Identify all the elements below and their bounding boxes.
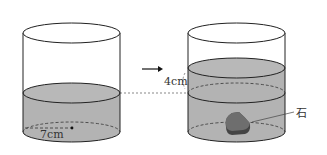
rise-label: 4cm (164, 75, 188, 88)
right-water-surface (188, 58, 285, 78)
radius-label: 7cm (40, 128, 64, 141)
left-top-rim (23, 23, 120, 43)
right-cylinder: 石 4cm (164, 23, 307, 142)
diagram-canvas: 7cm 石 4cm (0, 0, 327, 155)
arrow-icon (142, 66, 163, 72)
left-water-surface (23, 83, 120, 103)
center-dot (71, 127, 74, 130)
stone-label: 石 (296, 107, 307, 120)
left-cylinder: 7cm (23, 23, 120, 142)
right-top-rim (188, 23, 285, 43)
